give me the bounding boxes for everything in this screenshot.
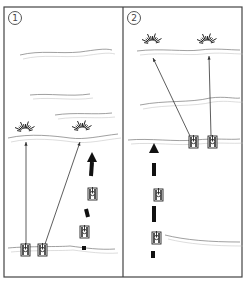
line-of-fire — [209, 56, 211, 136]
tank-icon — [208, 135, 217, 148]
arrowhead-icon — [24, 142, 27, 146]
terrain-ridge — [128, 139, 240, 141]
tank-icon — [88, 187, 97, 200]
terrain-ridge — [8, 134, 118, 139]
line-of-fire — [153, 58, 190, 136]
panel-2-number: 2 — [127, 11, 141, 25]
illustration: 1 2 — [0, 0, 246, 285]
movement-arrow-segment — [86, 209, 88, 217]
explosion-icon — [142, 34, 162, 46]
line-of-fire — [44, 142, 80, 247]
tank-icon — [38, 243, 47, 256]
explosion-icon — [15, 122, 35, 134]
arrowhead-icon — [208, 56, 211, 60]
explosion-icon — [197, 34, 217, 46]
terrain-hatching — [58, 117, 115, 119]
terrain-ridge — [30, 94, 90, 95]
tank-icon — [152, 231, 161, 244]
terrain-hatching — [140, 53, 243, 55]
movement-arrowhead-icon — [149, 143, 159, 153]
terrain-hatching — [168, 239, 243, 246]
tank-icon — [21, 243, 30, 256]
tank-icon — [154, 188, 163, 201]
panel-2 — [128, 34, 243, 259]
panel-1 — [8, 49, 121, 256]
movement-arrow-segment — [91, 162, 92, 176]
tank-icon — [189, 135, 198, 148]
tank-combat-diagram — [0, 0, 246, 285]
terrain-hatching — [23, 53, 115, 59]
explosion-icon — [72, 121, 92, 133]
terrain-hatching — [131, 143, 243, 145]
terrain-ridge — [55, 113, 112, 115]
terrain-ridge — [137, 49, 240, 51]
terrain-hatching — [33, 98, 93, 99]
tank-icon — [80, 225, 89, 238]
terrain-hatching — [11, 138, 121, 143]
movement-arrowhead-icon — [87, 152, 97, 162]
panel-1-number: 1 — [8, 11, 22, 25]
